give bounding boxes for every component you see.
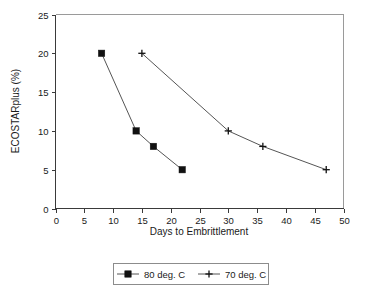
x-tick-label: 50 <box>339 215 350 226</box>
data-point-marker <box>179 167 185 173</box>
data-point-marker <box>133 128 139 134</box>
data-point-marker <box>323 166 330 173</box>
y-tick-label: 25 <box>38 10 49 21</box>
chart-figure: 0510152025 ECOSTARplus (%) 0510152025303… <box>0 0 380 295</box>
x-axis: 05101520253035404550 Days to Embrittleme… <box>54 209 350 238</box>
y-tick-label: 20 <box>38 48 49 59</box>
x-tick-label: 30 <box>223 215 234 226</box>
chart-legend: 80 deg. C70 deg. C <box>114 264 269 285</box>
x-tick-label: 20 <box>166 215 177 226</box>
data-point-marker <box>150 143 156 149</box>
legend-label: 80 deg. C <box>144 269 185 280</box>
data-point-marker <box>98 50 104 56</box>
y-tick-label: 15 <box>38 87 49 98</box>
series-2 <box>138 50 330 174</box>
x-tick-label: 0 <box>54 215 59 226</box>
plot-frame <box>56 15 344 209</box>
y-tick-label: 10 <box>38 126 49 137</box>
x-tick-label: 5 <box>82 215 87 226</box>
data-point-marker <box>259 143 266 150</box>
x-tick-label: 15 <box>137 215 148 226</box>
y-tick-label: 5 <box>43 165 48 176</box>
line-chart: 0510152025 ECOSTARplus (%) 0510152025303… <box>0 0 380 295</box>
x-tick-label: 35 <box>252 215 263 226</box>
y-axis-ticks <box>52 16 56 210</box>
data-series-layer <box>98 50 329 174</box>
x-tick-label: 25 <box>195 215 206 226</box>
y-axis-tick-labels: 0510152025 <box>38 10 49 215</box>
y-tick-label: 0 <box>43 204 48 215</box>
series-line <box>142 53 326 169</box>
x-tick-label: 40 <box>281 215 292 226</box>
legend-marker <box>125 271 131 277</box>
y-axis: 0510152025 ECOSTARplus (%) <box>10 10 56 215</box>
x-axis-ticks <box>57 209 345 213</box>
x-axis-tick-labels: 05101520253035404550 <box>54 215 350 226</box>
x-tick-label: 10 <box>108 215 119 226</box>
series-1 <box>98 50 185 173</box>
x-axis-title: Days to Embrittlement <box>150 226 249 237</box>
x-tick-label: 45 <box>310 215 321 226</box>
series-line <box>102 53 183 169</box>
legend-label: 70 deg. C <box>225 269 266 280</box>
y-axis-title: ECOSTARplus (%) <box>10 69 21 153</box>
